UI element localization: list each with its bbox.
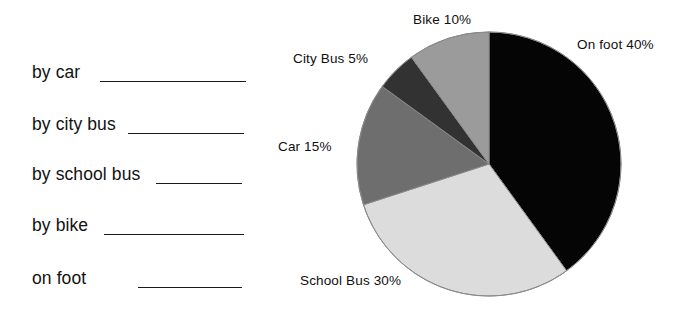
worksheet-answer-blank[interactable] (156, 183, 242, 184)
worksheet-row-label: by city bus (32, 114, 116, 135)
pie-chart: On foot 40%School Bus 30%Car 15%City Bus… (300, 0, 695, 313)
pie-label-school-bus: School Bus 30% (300, 273, 401, 288)
pie-label-bike: Bike 10% (413, 12, 471, 27)
worksheet-page: by carby city busby school busby bikeon … (0, 0, 695, 313)
worksheet-answer-blank[interactable] (138, 287, 242, 288)
pie-label-car: Car 15% (278, 139, 332, 154)
worksheet-row-label: on foot (32, 268, 86, 289)
worksheet-answer-blank[interactable] (100, 81, 246, 82)
worksheet-row-label: by car (32, 62, 80, 83)
worksheet-answer-blank[interactable] (104, 234, 244, 235)
worksheet-row-label: by bike (32, 215, 88, 236)
pie-label-on-foot: On foot 40% (577, 37, 654, 52)
worksheet-list: by carby city busby school busby bikeon … (0, 0, 300, 313)
worksheet-answer-blank[interactable] (128, 133, 244, 134)
worksheet-row-label: by school bus (32, 164, 140, 185)
pie-label-city-bus: City Bus 5% (293, 51, 368, 66)
